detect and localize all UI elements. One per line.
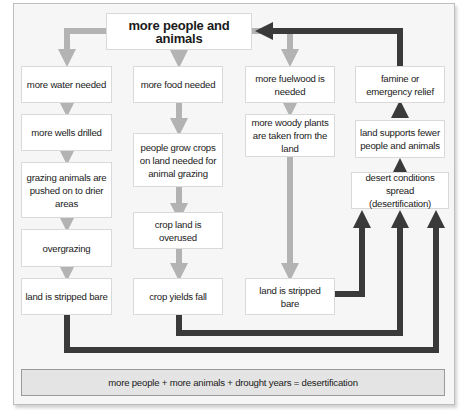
box-overgrazing: overgrazing bbox=[21, 229, 112, 267]
box-land-stripped-bare-1: land is stripped bare bbox=[21, 278, 112, 315]
arrow-top-to-water bbox=[67, 31, 106, 58]
box-land-supports-fewer: land supports fewer people and animals bbox=[355, 120, 445, 158]
box-desert-conditions-spread: desert conditions spread (desertificatio… bbox=[351, 172, 449, 209]
box-land-stripped-bare-2: land is stripped bare bbox=[245, 278, 335, 315]
box-famine-or-relief: famine or emergency relief bbox=[355, 66, 445, 103]
box-more-people-and-animals: more people and animals bbox=[106, 13, 252, 50]
box-people-grow-crops: people grow crops on land needed for ani… bbox=[133, 133, 223, 187]
footer-equation: more people + more animals + drought yea… bbox=[21, 369, 445, 396]
box-more-water-needed: more water needed bbox=[21, 66, 112, 103]
box-more-fuelwood-needed: more fuelwood is needed bbox=[245, 66, 335, 103]
box-more-wells-drilled: more wells drilled bbox=[21, 114, 112, 151]
box-woody-plants-taken: more woody plants are taken from the lan… bbox=[245, 114, 335, 157]
box-grazing-animals-pushed: grazing animals are pushed on to drier a… bbox=[21, 162, 112, 218]
box-crop-land-overused: crop land is overused bbox=[133, 212, 223, 249]
arrow-famine-to-top bbox=[264, 31, 400, 66]
arrow-top-to-fuel bbox=[252, 31, 290, 58]
box-crop-yields-fall: crop yields fall bbox=[133, 278, 223, 315]
box-more-food-needed: more food needed bbox=[133, 66, 223, 103]
arrow-col3-bare-to-desert bbox=[335, 219, 362, 294]
